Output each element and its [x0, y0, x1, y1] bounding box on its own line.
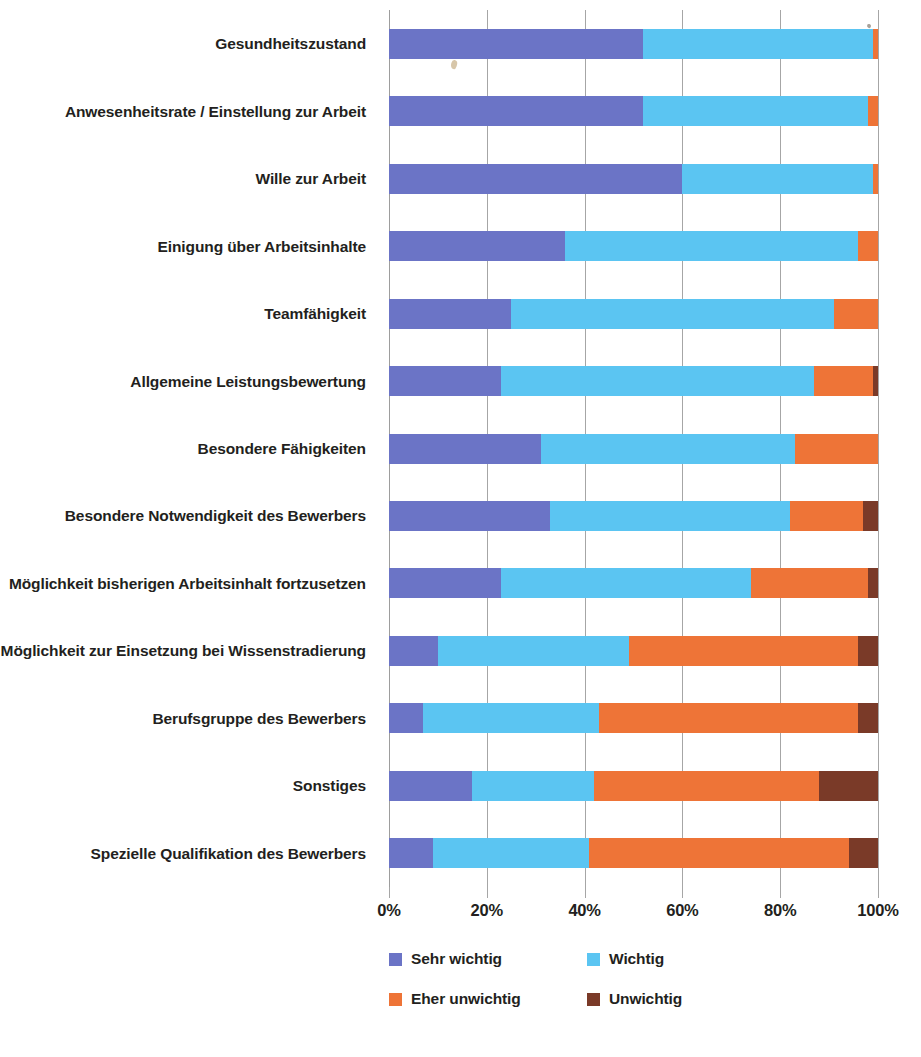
bar-segment — [589, 838, 848, 868]
bar-segment — [643, 29, 873, 59]
bar-segment — [389, 434, 541, 464]
plot-area — [389, 10, 878, 887]
x-axis-tick-label: 80% — [764, 901, 796, 920]
bar-rows — [389, 10, 878, 887]
legend-label: Sehr wichtig — [411, 950, 502, 968]
x-axis-tick — [487, 887, 488, 898]
legend-label: Unwichtig — [609, 990, 682, 1008]
bar-segment — [751, 568, 868, 598]
bar-segment — [814, 366, 873, 396]
bar-segment — [389, 703, 423, 733]
bar-segment — [389, 231, 565, 261]
bar-segment — [389, 636, 438, 666]
legend-swatch-icon — [389, 993, 402, 1006]
category-label: Wille zur Arbeit — [0, 168, 366, 189]
bar-row — [389, 568, 878, 598]
x-axis-tick-label: 40% — [568, 901, 600, 920]
bar-segment — [423, 703, 599, 733]
category-label: Spezielle Qualifikation des Bewerbers — [0, 843, 366, 864]
legend-swatch-icon — [587, 953, 600, 966]
legend-label: Eher unwichtig — [411, 990, 521, 1008]
bar-segment — [550, 501, 790, 531]
bar-segment — [790, 501, 863, 531]
category-label: Besondere Notwendigkeit des Bewerbers — [0, 505, 366, 526]
bar-segment — [438, 636, 629, 666]
bar-segment — [795, 434, 878, 464]
legend-label: Wichtig — [609, 950, 664, 968]
bar-segment — [873, 164, 878, 194]
bar-segment — [599, 703, 858, 733]
bar-segment — [389, 299, 511, 329]
category-label: Berufsgruppe des Bewerbers — [0, 708, 366, 729]
bar-segment — [849, 838, 878, 868]
bar-row — [389, 366, 878, 396]
legend-item-unwichtig: Unwichtig — [587, 990, 807, 1008]
bar-segment — [389, 366, 501, 396]
legend-row-2: Eher unwichtig Unwichtig — [389, 990, 859, 1008]
x-axis-tick-label: 0% — [377, 901, 400, 920]
bar-segment — [389, 164, 682, 194]
x-axis-tick — [878, 887, 879, 898]
x-axis-tick-label: 60% — [666, 901, 698, 920]
x-axis-tick-label: 20% — [471, 901, 503, 920]
bar-segment — [389, 29, 643, 59]
bar-segment — [389, 568, 501, 598]
category-label: Besondere Fähigkeiten — [0, 438, 366, 459]
bar-segment — [389, 838, 433, 868]
bar-segment — [389, 771, 472, 801]
bar-row — [389, 164, 878, 194]
bar-row — [389, 231, 878, 261]
bar-segment — [565, 231, 858, 261]
category-label: Teamfähigkeit — [0, 303, 366, 324]
legend-item-sehr-wichtig: Sehr wichtig — [389, 950, 587, 968]
bar-segment — [682, 164, 873, 194]
bar-segment — [389, 501, 550, 531]
x-axis-tick-label: 100% — [857, 901, 898, 920]
chart-legend: Sehr wichtig Wichtig Eher unwichtig Unwi… — [389, 950, 859, 1030]
bar-segment — [511, 299, 834, 329]
bar-segment — [858, 636, 878, 666]
bar-row — [389, 636, 878, 666]
bar-segment — [868, 96, 878, 126]
bar-segment — [834, 299, 878, 329]
bar-segment — [863, 501, 878, 531]
x-axis-tick — [780, 887, 781, 898]
legend-item-eher-unwichtig: Eher unwichtig — [389, 990, 587, 1008]
legend-swatch-icon — [389, 953, 402, 966]
category-label: Möglichkeit zur Einsetzung bei Wissenstr… — [0, 640, 366, 661]
category-label: Gesundheitszustand — [0, 33, 366, 54]
x-axis-tick — [389, 887, 390, 898]
category-label: Sonstiges — [0, 775, 366, 796]
bar-row — [389, 29, 878, 59]
bar-segment — [501, 366, 814, 396]
bar-segment — [594, 771, 819, 801]
bar-row — [389, 771, 878, 801]
bar-segment — [873, 29, 878, 59]
category-label: Möglichkeit bisherigen Arbeitsinhalt for… — [0, 573, 366, 594]
category-label: Allgemeine Leistungsbewertung — [0, 371, 366, 392]
bar-segment — [629, 636, 859, 666]
bar-segment — [819, 771, 878, 801]
legend-item-wichtig: Wichtig — [587, 950, 807, 968]
category-label: Anwesenheitsrate / Einstellung zur Arbei… — [0, 101, 366, 122]
bar-row — [389, 434, 878, 464]
bar-segment — [541, 434, 795, 464]
bar-segment — [643, 96, 868, 126]
legend-swatch-icon — [587, 993, 600, 1006]
bar-segment — [389, 96, 643, 126]
bar-segment — [433, 838, 589, 868]
bar-segment — [858, 703, 878, 733]
stacked-bar-chart: GesundheitszustandAnwesenheitsrate / Ein… — [0, 0, 921, 1057]
bar-row — [389, 501, 878, 531]
bar-segment — [858, 231, 878, 261]
bar-row — [389, 96, 878, 126]
x-axis-tick — [585, 887, 586, 898]
bar-segment — [868, 568, 878, 598]
gridline-100pct — [878, 10, 879, 887]
bar-row — [389, 703, 878, 733]
category-label: Einigung über Arbeitsinhalte — [0, 236, 366, 257]
bar-segment — [873, 366, 878, 396]
category-axis-labels: GesundheitszustandAnwesenheitsrate / Ein… — [0, 10, 378, 887]
bar-row — [389, 838, 878, 868]
bar-row — [389, 299, 878, 329]
